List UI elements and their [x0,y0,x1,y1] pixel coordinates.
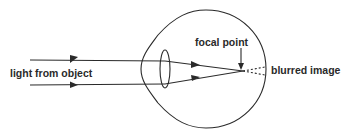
label-light-from-object: light from object [10,68,92,79]
arrow-icon [191,61,200,68]
arrow-icon [70,82,78,89]
label-focal-point: focal point [195,37,248,48]
lens [160,50,170,88]
arrow-icon [70,55,78,63]
arrow-down-icon [238,63,244,70]
label-blurred-image: blurred image [271,65,340,76]
